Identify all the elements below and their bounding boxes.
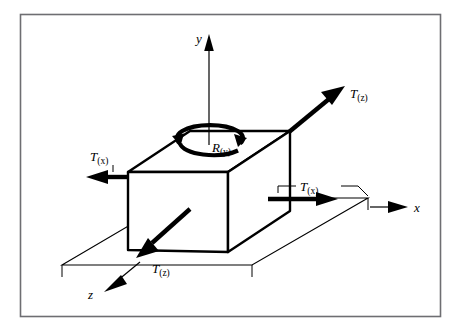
force-rotation-diagram: y R(y) T(z) T(x) T(x): [0, 0, 460, 332]
box-front-face: [128, 172, 228, 252]
rotation-symbol: R: [211, 140, 220, 155]
t-z-lower-subscript: (z): [159, 268, 170, 279]
figure-container: y R(y) T(z) T(x) T(x): [0, 0, 460, 332]
t-x-left-subscript: (x): [97, 156, 108, 167]
z-axis-label: z: [87, 287, 93, 302]
y-axis-label: y: [194, 31, 202, 46]
t-x-right-subscript: (x): [307, 186, 318, 197]
x-axis-label: x: [413, 200, 420, 215]
rotation-subscript: (y): [220, 147, 231, 158]
t-z-upper-subscript: (z): [357, 93, 368, 104]
